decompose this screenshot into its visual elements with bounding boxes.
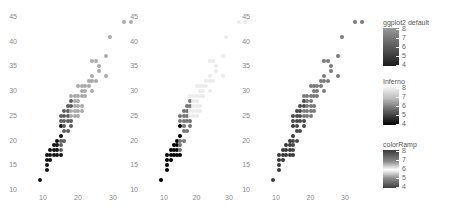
- data-point: [97, 69, 101, 73]
- legend-tick: [396, 160, 399, 161]
- data-point: [214, 69, 218, 73]
- data-point: [159, 178, 163, 182]
- data-point: [83, 89, 87, 93]
- data-point: [94, 59, 98, 63]
- x-tick-label: 30: [219, 194, 239, 201]
- data-point: [319, 84, 323, 88]
- y-tick-label: 35: [236, 62, 250, 69]
- data-point: [69, 124, 73, 128]
- data-point: [195, 114, 199, 118]
- data-point: [48, 158, 52, 162]
- legend-tick: [396, 88, 399, 89]
- data-point: [208, 74, 212, 78]
- data-point: [38, 178, 42, 182]
- x-tick-label: 20: [187, 194, 207, 201]
- data-point: [221, 54, 225, 58]
- y-tick-label: 20: [236, 137, 250, 144]
- legend-tick: [396, 124, 399, 125]
- y-tick-label: 10: [124, 186, 138, 193]
- data-point: [178, 134, 182, 138]
- data-point: [291, 143, 295, 147]
- legend-tick: [396, 151, 399, 152]
- y-tick-label: 45: [3, 13, 17, 20]
- y-tick-label: 20: [3, 137, 17, 144]
- y-tick-label: 40: [236, 38, 250, 45]
- y-tick-label: 45: [236, 13, 250, 20]
- data-point: [90, 89, 94, 93]
- data-point: [97, 64, 101, 68]
- data-point: [340, 35, 344, 39]
- data-point: [90, 74, 94, 78]
- data-point: [76, 99, 80, 103]
- data-point: [178, 148, 182, 152]
- data-point: [129, 20, 133, 24]
- data-point: [195, 99, 199, 103]
- x-tick-label: 30: [335, 194, 355, 201]
- data-point: [87, 84, 91, 88]
- legend-tick-label: 7: [402, 156, 406, 163]
- legend-tick-label: 6: [402, 102, 406, 109]
- data-point: [59, 134, 63, 138]
- data-point: [336, 54, 340, 58]
- data-point: [182, 124, 186, 128]
- legend-tick-label: 7: [402, 93, 406, 100]
- data-point: [326, 59, 330, 63]
- data-point: [336, 74, 340, 78]
- legend-tick: [396, 169, 399, 170]
- y-tick-label: 20: [124, 137, 138, 144]
- legend-tick: [396, 178, 399, 179]
- data-point: [243, 20, 247, 24]
- data-point: [322, 74, 326, 78]
- data-point: [326, 79, 330, 83]
- data-point: [329, 64, 333, 68]
- data-point: [208, 89, 212, 93]
- legend-tick-label: 8: [402, 84, 406, 91]
- data-point: [104, 74, 108, 78]
- data-point: [211, 59, 215, 63]
- y-tick-label: 15: [236, 161, 250, 168]
- data-point: [178, 153, 182, 157]
- y-tick-label: 35: [124, 62, 138, 69]
- data-point: [66, 129, 70, 133]
- legend-tick-label: 6: [402, 165, 406, 172]
- legend-tick: [396, 29, 399, 30]
- y-tick-label: 30: [236, 87, 250, 94]
- y-tick-label: 25: [236, 112, 250, 119]
- legend-tick-label: 4: [402, 120, 406, 127]
- data-point: [237, 20, 241, 24]
- x-tick-label: 10: [154, 194, 174, 201]
- data-point: [302, 124, 306, 128]
- data-point: [178, 143, 182, 147]
- legend-tick-label: 4: [402, 61, 406, 68]
- y-tick-label: 25: [3, 112, 17, 119]
- data-point: [80, 109, 84, 113]
- data-point: [281, 158, 285, 162]
- data-point: [169, 158, 173, 162]
- data-point: [360, 20, 364, 24]
- legend-tick: [396, 97, 399, 98]
- data-point: [69, 119, 73, 123]
- data-point: [188, 124, 192, 128]
- data-point: [201, 89, 205, 93]
- y-tick-label: 30: [3, 87, 17, 94]
- data-point: [302, 119, 306, 123]
- data-point: [59, 148, 63, 152]
- legend-tick: [396, 115, 399, 116]
- y-tick-label: 30: [124, 87, 138, 94]
- data-point: [295, 139, 299, 143]
- legend-tick: [396, 187, 399, 188]
- legend-tick: [396, 106, 399, 107]
- legend-tick-label: 5: [402, 52, 406, 59]
- y-tick-label: 15: [3, 161, 17, 168]
- y-tick-label: 45: [124, 13, 138, 20]
- data-point: [298, 129, 302, 133]
- x-tick-label: 10: [33, 194, 53, 201]
- data-point: [277, 168, 281, 172]
- data-point: [295, 124, 299, 128]
- y-tick-label: 40: [124, 38, 138, 45]
- data-point: [59, 153, 63, 157]
- data-point: [201, 94, 205, 98]
- y-tick-label: 25: [124, 112, 138, 119]
- y-tick-label: 15: [124, 161, 138, 168]
- data-point: [329, 69, 333, 73]
